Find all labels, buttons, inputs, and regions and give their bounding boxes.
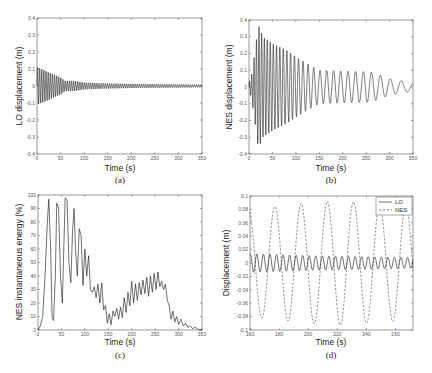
y-tick-label: 0 [32, 83, 35, 89]
caption-c: (c) [115, 350, 125, 360]
x-tick-label: 200 [127, 155, 136, 161]
trace-lo-d [250, 254, 413, 273]
y-tick-label: 90 [30, 205, 36, 211]
trace-nes-b [249, 27, 413, 144]
x-tick-label: 50 [270, 155, 276, 161]
panel-b: 050100150200250300350-0.4-0.3-0.2-0.100.… [224, 17, 417, 185]
y-tick-label: 100 [28, 192, 37, 198]
y-tick-label: 0.1 [241, 193, 248, 199]
plot-frame-d [250, 196, 413, 330]
x-tick-label: 0 [36, 155, 39, 161]
x-tick-label: 200 [339, 155, 348, 161]
y-tick-label: 50 [30, 259, 36, 265]
y-tick-label: 0 [244, 84, 247, 90]
trace-lo-a [37, 68, 202, 104]
y-tick-label: 0.1 [28, 66, 35, 72]
xlabel-c: Time (s) [105, 337, 136, 347]
y-tick-label: -0.04 [237, 287, 249, 293]
y-tick-label: 0.08 [238, 206, 248, 212]
caption-a: (a) [115, 175, 125, 185]
y-tick-label: 0.02 [238, 246, 248, 252]
x-tick-label: 300 [385, 155, 394, 161]
y-tick-label: -0.08 [237, 313, 249, 319]
y-tick-label: -0.02 [237, 273, 249, 279]
y-tick-label: -0.4 [238, 151, 247, 157]
x-tick-label: 0 [37, 331, 40, 337]
ylabel-d: Displacement (m) [221, 230, 231, 297]
legend-d: LO NES [376, 197, 412, 215]
y-tick-label: 0 [33, 327, 36, 333]
y-tick-label: 70 [30, 232, 36, 238]
x-tick-label: 100 [292, 155, 301, 161]
xlabel-d: Time (s) [316, 337, 347, 347]
y-tick-label: -0.4 [26, 151, 35, 157]
ticks-c: 0501001502002503003500102030405060708090… [28, 192, 207, 337]
y-tick-label: 0.4 [240, 17, 247, 23]
panel-a: 050100150200250300350-0.4-0.3-0.2-0.100.… [14, 15, 206, 185]
y-tick-label: -0.1 [238, 100, 247, 106]
x-tick-label: 180 [275, 331, 284, 337]
ylabel-a: LO displacement (m) [14, 46, 24, 125]
legend-lo-label: LO [395, 199, 403, 205]
y-tick-label: -0.3 [26, 134, 35, 140]
x-tick-label: 240 [362, 331, 371, 337]
ylabel-c: NES instantaneous energy (%) [14, 203, 24, 320]
y-tick-label: 0.06 [238, 220, 248, 226]
x-tick-label: 150 [104, 155, 113, 161]
x-tick-label: 350 [198, 331, 207, 337]
ylabel-b: NES displacement (m) [224, 44, 234, 129]
x-tick-label: 0 [248, 155, 251, 161]
x-tick-label: 300 [174, 331, 183, 337]
x-tick-label: 350 [409, 155, 418, 161]
x-tick-label: 250 [151, 331, 160, 337]
y-tick-label: -0.2 [26, 117, 35, 123]
ticks-a: 050100150200250300350-0.4-0.3-0.2-0.100.… [26, 15, 206, 161]
y-tick-label: -0.2 [238, 117, 247, 123]
y-tick-label: 10 [30, 313, 36, 319]
y-tick-label: 60 [30, 246, 36, 252]
y-tick-label: -0.1 [26, 100, 35, 106]
x-tick-label: 50 [58, 155, 64, 161]
xlabel-a: Time (s) [105, 163, 136, 173]
trace-nes-d [250, 201, 413, 325]
y-tick-label: 40 [30, 273, 36, 279]
y-tick-label: 20 [30, 300, 36, 306]
x-tick-label: 100 [80, 155, 89, 161]
x-tick-label: 250 [362, 155, 371, 161]
y-tick-label: -0.1 [239, 327, 248, 333]
legend-nes-label: NES [395, 207, 407, 213]
x-tick-label: 200 [304, 331, 313, 337]
trace-energy-c [38, 198, 202, 330]
y-tick-label: 0.04 [238, 233, 248, 239]
x-tick-label: 300 [174, 155, 183, 161]
caption-d: (d) [326, 350, 337, 360]
x-tick-label: 150 [315, 155, 324, 161]
y-tick-label: 0.1 [240, 67, 247, 73]
x-tick-label: 100 [81, 331, 90, 337]
panel-d: 160180200220240260-0.1-0.08-0.06-0.04-0.… [221, 193, 413, 360]
panel-c: 0501001502002503003500102030405060708090… [14, 192, 206, 360]
y-tick-label: -0.3 [238, 134, 247, 140]
y-tick-label: -0.06 [237, 300, 249, 306]
y-tick-label: 0 [245, 260, 248, 266]
x-tick-label: 260 [391, 331, 400, 337]
xlabel-b: Time (s) [316, 163, 347, 173]
y-tick-label: 80 [30, 219, 36, 225]
y-tick-label: 0.3 [240, 33, 247, 39]
plot-frame-b [249, 20, 413, 154]
y-tick-label: 0.3 [28, 32, 35, 38]
x-tick-label: 350 [198, 155, 207, 161]
x-tick-label: 50 [59, 331, 65, 337]
figure-canvas: 050100150200250300350-0.4-0.3-0.2-0.100.… [0, 0, 432, 373]
y-tick-label: 0.4 [28, 15, 35, 21]
y-tick-label: 0.2 [28, 49, 35, 55]
x-tick-label: 250 [151, 155, 160, 161]
caption-b: (b) [326, 175, 337, 185]
y-tick-label: 30 [30, 286, 36, 292]
y-tick-label: 0.2 [240, 50, 247, 56]
